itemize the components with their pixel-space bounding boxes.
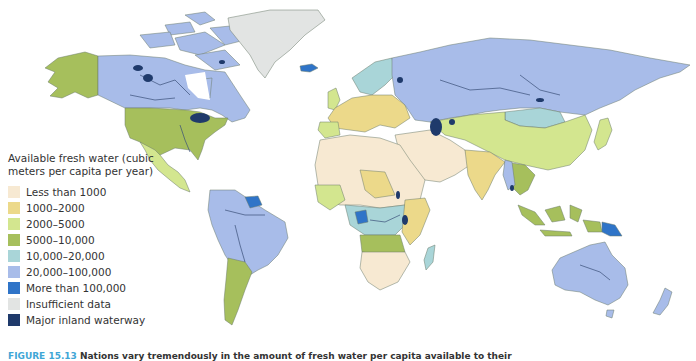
legend-swatch: [8, 250, 20, 262]
legend-label: 20,000–100,000: [26, 266, 111, 278]
europe: [328, 95, 410, 132]
argentina: [224, 258, 252, 325]
legend-swatch: [8, 314, 20, 326]
legend-item-more-than-100000: More than 100,000: [8, 280, 178, 296]
legend-item-5000-10000: 5000–10,000: [8, 232, 178, 248]
figure-caption: FIGURE 15.13 Nations vary tremendously i…: [8, 351, 512, 361]
legend-label: 2000–5000: [26, 218, 85, 230]
legend-swatch: [8, 282, 20, 294]
legend-label: 1000–2000: [26, 202, 85, 214]
legend-swatch: [8, 202, 20, 214]
legend-swatch: [8, 266, 20, 278]
legend-item-10000-20000: 10,000–20,000: [8, 248, 178, 264]
legend-item-2000-5000: 2000–5000: [8, 216, 178, 232]
iberia: [318, 122, 340, 138]
legend-label: 5000–10,000: [26, 234, 95, 246]
madagascar: [424, 245, 435, 270]
caption-text: Nations vary tremendously in the amount …: [80, 351, 512, 361]
legend-label: Less than 1000: [26, 186, 106, 198]
new-zealand: [653, 288, 672, 315]
tasmania: [606, 310, 614, 318]
legend-item-major-inland-waterway: Major inland waterway: [8, 312, 178, 328]
scandinavia: [352, 58, 395, 95]
legend-label: Insufficient data: [26, 298, 111, 310]
map-legend: Available fresh water (cubic meters per …: [8, 152, 178, 328]
india: [465, 150, 505, 200]
central-africa: [345, 205, 405, 235]
papua-new-guinea: [602, 222, 622, 236]
legend-swatch: [8, 186, 20, 198]
legend-item-insufficient-data: Insufficient data: [8, 296, 178, 312]
iceland: [300, 64, 318, 72]
alaska: [45, 52, 98, 98]
legend-label: Major inland waterway: [26, 314, 145, 326]
figure-number: FIGURE 15.13: [8, 351, 77, 361]
legend-swatch: [8, 298, 20, 310]
australia: [552, 242, 628, 305]
legend-item-less-than-1000: Less than 1000: [8, 184, 178, 200]
indonesia: [518, 205, 602, 236]
legend-label: 10,000–20,000: [26, 250, 105, 262]
legend-title: Available fresh water (cubic meters per …: [8, 152, 178, 178]
legend-swatch: [8, 234, 20, 246]
southern-africa: [360, 252, 410, 290]
legend-item-20000-100000: 20,000–100,000: [8, 264, 178, 280]
legend-label: More than 100,000: [26, 282, 126, 294]
west-africa: [315, 185, 345, 210]
legend-swatch: [8, 218, 20, 230]
legend-item-1000-2000: 1000–2000: [8, 200, 178, 216]
japan: [594, 118, 612, 150]
